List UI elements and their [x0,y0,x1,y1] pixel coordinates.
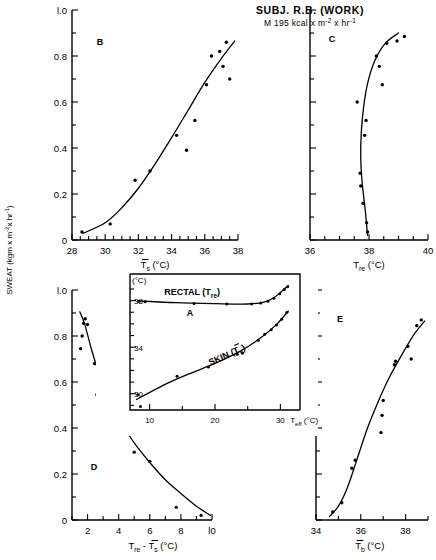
inset-data-point [250,303,253,306]
y-tick-label: 0.8 [54,331,67,342]
data-point [375,54,378,57]
sweat-label-tail: ) [5,205,14,208]
data-point [205,83,208,86]
y-tick-label: 0.6 [54,97,67,108]
data-point [210,54,213,57]
y-tick-label: 0.4 [54,423,67,434]
data-point [378,65,381,68]
data-point [395,39,398,42]
y-tick-label: 0.2 [54,189,67,200]
inset-data-point [270,328,273,331]
sweat-label-mid: x hr [5,213,14,227]
data-point [108,222,111,225]
panel-letter-c: C [329,34,336,44]
x-tick-label: 34 [311,525,322,536]
inset-data-point [272,297,275,300]
inset-data-point [139,405,142,408]
data-point [133,450,136,453]
inset-x-tick-label: 10 [145,416,154,425]
data-point [175,134,178,137]
inset-data-point [176,375,179,378]
data-point [359,184,362,187]
data-point [175,506,178,509]
data-point [356,100,359,103]
data-point [185,149,188,152]
subtitle-exp2: -1 [350,17,356,24]
data-point [379,431,382,434]
inset-data-point [263,333,266,336]
x-tick-label: 36 [200,245,211,256]
data-point [363,134,366,137]
data-point [380,414,383,417]
figure-root: SUBJ. R.B. (WORK) M 195 kcal x m-2 x hr-… [0,0,436,560]
sweat-axis-label: SWEAT (kgm x m-2x hr-1) [4,205,14,295]
data-point [148,169,151,172]
data-point [410,357,413,360]
panel-a-inset: 303438102030(°C)Teff (°C)RECTAL (Tre)SKI… [96,272,319,436]
inset-data-point [285,311,288,314]
panel-b: 00.20.40.60.8l.0283032343638BTs (°C) [54,5,244,273]
inset-data-point [275,324,278,327]
inset-data-point [193,302,196,305]
data-point [80,334,83,337]
data-point [358,172,361,175]
inset-data-point [136,393,139,396]
x-tick-label: 38 [233,245,244,256]
data-point [133,179,136,182]
x-axis-label: Tre (°C) [353,259,385,272]
inset-x-tick-label: 20 [211,416,220,425]
x-tick-label: 28 [67,245,78,256]
data-point [420,318,423,321]
x-tick-label: 32 [133,245,144,256]
data-point [381,83,384,86]
data-point [221,65,224,68]
inset-data-point [138,300,141,303]
data-point [148,460,151,463]
data-point [364,119,367,122]
data-point [393,363,396,366]
x-tick-label: 36 [356,525,367,536]
x-tick-label: 30 [100,245,111,256]
data-point [228,77,231,80]
data-point [199,514,202,517]
y-tick-label: 0.2 [54,469,67,480]
data-point [403,35,406,38]
x-tick-label: 38 [364,245,375,256]
sweat-label-main: SWEAT (kgm x m [5,232,14,295]
data-point [406,345,409,348]
data-point [365,221,368,224]
y-tick-label: 0.6 [54,377,67,388]
y-tick-label: l.0 [57,5,67,16]
x-tick-label: 6 [147,525,152,536]
data-point [340,501,343,504]
panel-e: 343638ETb (°C) [311,290,428,553]
data-point [366,230,369,233]
inset-y-axis-unit: (°C) [132,276,147,285]
inset-data-point [259,301,262,304]
data-point [382,399,385,402]
inset-data-point [283,288,286,291]
subtitle-mid: x hr [332,18,350,28]
x-tick-label: 2 [85,525,90,536]
data-point [415,324,418,327]
x-tick-label: 36 [305,245,316,256]
data-point [193,119,196,122]
x-tick-label: 8 [178,525,183,536]
sweat-axis-label-group: SWEAT (kgm x m-2x hr-1) [4,205,14,295]
inset-data-point [280,318,283,321]
x-tick-label: 34 [166,245,177,256]
data-point [82,322,85,325]
x-tick-label: l0 [208,525,215,536]
panel-letter-b: B [97,37,104,47]
x-tick-label: 40 [423,245,434,256]
fitted-curve [84,41,235,233]
y-tick-label: l.0 [57,285,67,296]
data-point [350,467,353,470]
data-point [225,41,228,44]
inset-data-point [266,300,269,303]
inset-x-tick-label: 30 [276,416,285,425]
y-tick-label: 0 [62,515,67,526]
data-point [79,347,82,350]
x-axis-label: Tre - Ts (°C) [128,540,177,553]
data-point [331,510,334,513]
